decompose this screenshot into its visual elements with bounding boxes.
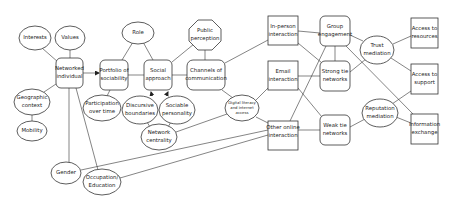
node-networked-individual: Networked individual — [55, 58, 84, 88]
node-label: over time — [89, 108, 116, 114]
node-role: Role — [122, 22, 154, 44]
node-label: personality — [162, 110, 193, 117]
node-label: Channels of — [190, 67, 222, 73]
node-in-person-interaction: In-person interaction — [268, 16, 298, 45]
edge-geographic-networked — [44, 84, 56, 92]
node-access-to-support: Access to support — [411, 64, 438, 94]
edge-social-public — [172, 44, 194, 62]
node-label: Information — [409, 121, 440, 127]
node-label: communication — [185, 75, 227, 81]
edge-social-sociable — [166, 92, 168, 96]
node-label: interaction — [268, 132, 297, 138]
edge-social-discursive — [151, 92, 152, 96]
node-label: centrality — [146, 137, 172, 144]
node-label: Public — [197, 27, 213, 33]
edge-digital-other — [256, 117, 268, 123]
node-channels-of-communication: Channels of communication — [185, 60, 227, 90]
node-label: Trust — [369, 42, 383, 48]
node-sociable-personality: Sociable personality — [159, 96, 195, 124]
node-network-centrality: Network centrality — [141, 124, 177, 150]
node-label: context — [22, 102, 42, 108]
node-interests: Interests — [19, 26, 51, 50]
node-label: Gender — [56, 169, 77, 175]
node-label: interaction — [268, 31, 297, 37]
edge-email-weak — [298, 88, 322, 117]
node-label: sociability — [100, 75, 128, 82]
edge-interests-networked — [42, 48, 58, 62]
edge-inperson-group — [298, 31, 320, 33]
node-label: Values — [61, 34, 79, 40]
node-label: Reputation — [365, 105, 394, 112]
node-weak-tie-networks: Weak tie networks — [320, 115, 350, 145]
edge-portfolio-role — [122, 42, 133, 60]
node-label: boundaries — [125, 110, 155, 116]
edge-trust-resources — [393, 36, 411, 44]
node-social-approach: Social approach — [144, 60, 172, 90]
node-access-to-resources: Access to resources — [411, 18, 438, 48]
edge-strong-trust — [350, 59, 366, 72]
node-discursive-boundaries: Discursive boundaries — [122, 96, 158, 124]
node-geographic-context: Geographic context — [14, 89, 50, 115]
node-trust-mediation: Trust mediation — [360, 36, 394, 64]
node-label: approach — [145, 75, 170, 82]
node-label: perception — [191, 35, 220, 42]
edge-channels-inperson — [225, 40, 268, 63]
node-label: interaction — [268, 76, 297, 82]
node-label: support — [414, 79, 435, 86]
node-label: Interests — [23, 34, 47, 40]
node-public-perception: Public perception — [189, 20, 221, 50]
node-label: Other online — [266, 124, 300, 130]
node-label: engagement — [318, 31, 352, 38]
node-occupation-education: Occupation/ Education — [83, 169, 121, 195]
node-strong-tie-networks: Strong tie networks — [320, 61, 350, 91]
node-values: Values — [55, 26, 85, 50]
node-information-exchange: Information exchange — [409, 114, 440, 144]
node-label: Role — [132, 29, 144, 35]
node-label: mediation — [366, 113, 393, 119]
node-label: individual — [56, 73, 82, 79]
node-label: exchange — [411, 129, 438, 136]
node-other-online-interaction: Other online interaction — [266, 121, 300, 150]
node-label: Group — [327, 23, 344, 30]
node-reputation-mediation: Reputation mediation — [362, 99, 398, 127]
node-mobility: Mobility — [17, 121, 47, 141]
node-digital-literacy: Digital literacy and internet access — [225, 95, 259, 121]
node-label: Portfolio of — [99, 67, 128, 73]
concept-map: Interests Values Networked individual Ge… — [0, 0, 454, 213]
node-label: Sociable — [166, 102, 189, 108]
node-portfolio-of-sociability: Portfolio of sociability — [99, 60, 128, 90]
node-label: Strong tie — [322, 68, 349, 75]
node-participation-over-time: Participation over time — [83, 95, 121, 121]
node-label: networks — [323, 76, 348, 82]
node-label: Discursive — [126, 102, 155, 108]
node-label: Networked — [55, 65, 84, 71]
edge-portfolio-participation — [107, 90, 110, 96]
node-label: In-person — [270, 23, 295, 30]
node-label: networks — [323, 130, 348, 136]
node-label: Access to — [412, 25, 438, 31]
edge-channels-digital — [222, 90, 233, 98]
node-label: Weak tie — [323, 122, 347, 128]
node-label: Participation — [85, 100, 119, 107]
node-label: Access to — [412, 71, 438, 77]
node-label: access — [236, 110, 249, 115]
node-label: Mobility — [21, 127, 43, 134]
node-label: Social — [150, 67, 166, 73]
edge-trust-support — [391, 58, 411, 71]
edge-weak-reputation — [350, 119, 365, 127]
edge-inperson-strong — [298, 43, 322, 63]
node-label: mediation — [363, 50, 390, 56]
node-label: Occupation/ — [86, 174, 119, 181]
node-label: Education — [89, 182, 116, 188]
edge-role-social — [143, 42, 153, 60]
node-email-interaction: Email interaction — [268, 61, 298, 90]
node-group-engagement: Group engagement — [318, 16, 352, 46]
node-gender: Gender — [51, 162, 81, 184]
node-label: Email — [276, 68, 291, 74]
node-label: Network — [148, 129, 171, 135]
node-label: Geographic — [16, 94, 47, 101]
edge-digital-email — [256, 88, 268, 100]
node-label: resources — [411, 33, 437, 39]
